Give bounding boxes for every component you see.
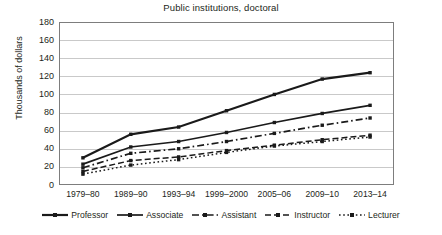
x-tick-label: 1979–80: [66, 189, 99, 199]
legend-item-lecturer[interactable]: Lecturer: [339, 210, 400, 220]
gridline: [60, 167, 393, 168]
gridline: [60, 94, 393, 95]
y-tick-label: 80: [14, 107, 54, 117]
y-tick-label: 100: [14, 89, 54, 99]
legend-swatch-instructor-icon: [265, 210, 291, 220]
legend-label: Assistant: [221, 210, 256, 220]
legend-swatch-professor-icon: [42, 210, 68, 220]
legend-swatch-assistant-icon: [192, 210, 218, 220]
plot-area: [59, 22, 394, 185]
y-tick-label: 140: [14, 53, 54, 63]
legend-item-professor[interactable]: Professor: [42, 210, 108, 220]
gridline: [60, 131, 393, 132]
y-tick-label: 0: [14, 180, 54, 190]
legend-item-assistant[interactable]: Assistant: [192, 210, 256, 220]
chart-container: Public institutions, doctoral Thousands …: [0, 0, 442, 235]
legend-label: Associate: [146, 210, 183, 220]
x-tick-label: 2013–14: [353, 189, 386, 199]
y-tick-label: 120: [14, 71, 54, 81]
legend-item-associate[interactable]: Associate: [117, 210, 183, 220]
gridline: [60, 113, 393, 114]
gridline: [60, 40, 393, 41]
x-tick-label: 2009–10: [305, 189, 338, 199]
y-tick-label: 180: [14, 17, 54, 27]
x-tick-label: 1999–2000: [205, 189, 248, 199]
legend-item-instructor[interactable]: Instructor: [265, 210, 330, 220]
gridline: [60, 58, 393, 59]
legend-label: Instructor: [294, 210, 330, 220]
x-tick-label: 1989–90: [114, 189, 147, 199]
gridline: [60, 76, 393, 77]
x-tick-label: 1993–94: [162, 189, 195, 199]
gridline: [60, 149, 393, 150]
legend-label: Professor: [71, 210, 108, 220]
y-tick-label: 40: [14, 143, 54, 153]
legend-swatch-associate-icon: [117, 210, 143, 220]
y-tick-label: 160: [14, 35, 54, 45]
chart-legend: ProfessorAssociateAssistantInstructorLec…: [0, 210, 442, 220]
y-tick-label: 60: [14, 125, 54, 135]
x-tick-label: 2005–06: [258, 189, 291, 199]
legend-swatch-lecturer-icon: [339, 210, 365, 220]
legend-label: Lecturer: [368, 210, 400, 220]
y-tick-label: 20: [14, 161, 54, 171]
